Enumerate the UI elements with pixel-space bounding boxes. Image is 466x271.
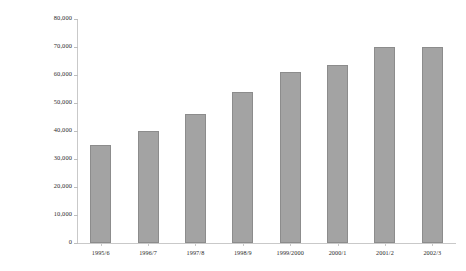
y-tick-label: 80,000 xyxy=(54,14,72,21)
bar xyxy=(138,131,159,243)
bar xyxy=(280,72,301,243)
y-tick: 0 xyxy=(0,243,466,244)
x-tick-label: 2002/3 xyxy=(402,249,462,256)
bar-chart: Number of Appeals Lodged 010,00020,00030… xyxy=(0,0,466,271)
x-tick-mark xyxy=(290,243,291,246)
bar xyxy=(422,47,443,243)
x-tick-mark xyxy=(243,243,244,246)
y-tick-label: 60,000 xyxy=(54,70,72,77)
x-tick-mark xyxy=(338,243,339,246)
bar xyxy=(90,145,111,243)
y-tick-mark xyxy=(74,243,78,244)
bar xyxy=(374,47,395,243)
y-tick-label: 50,000 xyxy=(54,98,72,105)
y-tick-label: 30,000 xyxy=(54,154,72,161)
x-tick-mark xyxy=(148,243,149,246)
chart-page: Number of Appeals Lodged 010,00020,00030… xyxy=(0,0,466,271)
x-tick-mark xyxy=(195,243,196,246)
bar-series xyxy=(77,19,456,243)
y-tick-label: 20,000 xyxy=(54,182,72,189)
y-tick-label: 70,000 xyxy=(54,42,72,49)
y-tick-label: 0 xyxy=(69,238,72,245)
bar xyxy=(185,114,206,243)
bar xyxy=(232,92,253,243)
x-tick-mark xyxy=(385,243,386,246)
x-tick-mark xyxy=(101,243,102,246)
y-tick-label: 40,000 xyxy=(54,126,72,133)
bar xyxy=(327,65,348,243)
x-tick-mark xyxy=(432,243,433,246)
y-tick-label: 10,000 xyxy=(54,210,72,217)
